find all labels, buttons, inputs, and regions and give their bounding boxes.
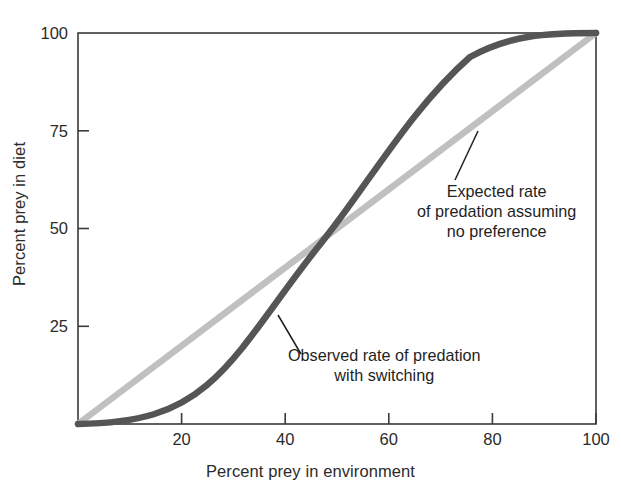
x-tick-label-20: 20 bbox=[152, 430, 212, 449]
x-tick-label-60: 60 bbox=[359, 430, 419, 449]
x-tick-label-80: 80 bbox=[462, 430, 522, 449]
observed-rate-annotation-line-2: with switching bbox=[288, 365, 481, 385]
observed-rate-annotation: Observed rate of predation with switchin… bbox=[288, 345, 481, 385]
observed-rate-annotation-line-1: Observed rate of predation bbox=[288, 345, 481, 365]
x-axis-title: Percent prey in environment bbox=[0, 462, 621, 481]
x-tick-label-40: 40 bbox=[255, 430, 315, 449]
y-axis-title: Percent prey in diet bbox=[10, 4, 34, 424]
chart-figure: 100 75 50 25 20 40 60 80 100 Percent pre… bbox=[0, 0, 621, 494]
expected-rate-annotation-line-3: no preference bbox=[417, 221, 576, 241]
x-tick-label-100: 100 bbox=[566, 430, 621, 449]
expected-rate-annotation-line-1: Expected rate bbox=[417, 181, 576, 201]
expected-rate-annotation: Expected rate of predation assuming no p… bbox=[417, 181, 576, 241]
expected-rate-annotation-line-2: of predation assuming bbox=[417, 201, 576, 221]
plot-area bbox=[0, 0, 621, 494]
